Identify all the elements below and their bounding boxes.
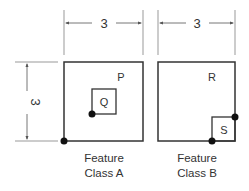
label-s: S [220, 124, 227, 136]
vertex-dot-p [61, 138, 68, 145]
vertex-dot-q [89, 111, 96, 118]
feature-class-b: R S Feature Class B [158, 62, 239, 179]
label-r: R [208, 71, 216, 83]
caption-a-line1: Feature [84, 152, 124, 164]
dimension-label-top-b: 3 [193, 16, 200, 31]
caption-b-line2: Class B [177, 167, 217, 179]
label-p: P [117, 71, 124, 83]
caption-b-line1: Feature [177, 152, 217, 164]
vertex-dot-s-bottom [209, 138, 216, 145]
dimension-label-top-a: 3 [100, 16, 107, 31]
feature-class-a: P Q Feature Class A [61, 62, 144, 179]
caption-a-line2: Class A [85, 167, 124, 179]
dimension-label-side: 3 [28, 98, 43, 105]
dimension-side: 3 [15, 62, 58, 141]
feature-class-diagram: 3 3 3 P Q Feature Class A R S [0, 0, 249, 191]
dimension-top-b: 3 [158, 10, 235, 55]
dimension-top-a: 3 [64, 10, 143, 55]
label-q: Q [100, 96, 109, 108]
vertex-dot-s-right [232, 114, 239, 121]
